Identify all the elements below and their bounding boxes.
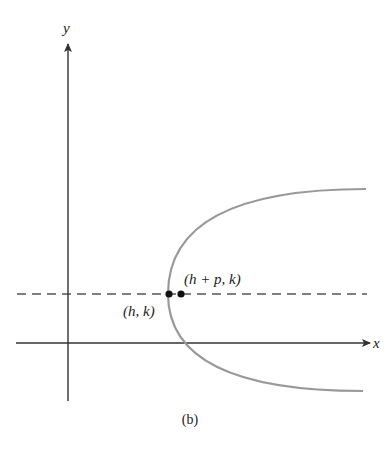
vertex-point (165, 290, 172, 297)
parabola-diagram: y x (h, k) (h + p, k) (b) (0, 0, 391, 453)
focus-point (177, 290, 184, 297)
parabola-curve (168, 189, 366, 391)
y-axis-label: y (61, 20, 70, 36)
vertex-label: (h, k) (123, 303, 155, 320)
focus-label: (h + p, k) (184, 271, 241, 288)
figure-caption: (b) (182, 412, 199, 428)
x-axis-label: x (372, 335, 380, 351)
